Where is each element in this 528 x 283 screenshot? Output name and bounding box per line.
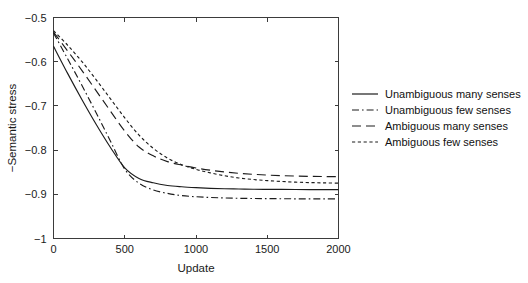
x-tick-label: 500 <box>116 243 134 255</box>
x-axis-tick-labels: 0500100015002000 <box>50 243 350 255</box>
y-axis-ticks <box>54 18 339 239</box>
legend-label-1: Unambiguous few senses <box>385 104 511 116</box>
data-series-group <box>54 31 339 199</box>
y-tick-label: −0.8 <box>25 144 47 156</box>
figure-canvas: 0500100015002000 −1−0.9−0.8−0.7−0.6−0.5 … <box>0 0 528 283</box>
chart-plot: 0500100015002000 −1−0.9−0.8−0.7−0.6−0.5 … <box>0 0 528 283</box>
y-tick-label: −0.5 <box>25 12 47 24</box>
x-axis-ticks <box>54 18 339 239</box>
axes-box <box>54 18 339 239</box>
y-axis-tick-labels: −1−0.9−0.8−0.7−0.6−0.5 <box>25 12 47 245</box>
x-tick-label: 1500 <box>255 243 279 255</box>
x-tick-label: 1000 <box>184 243 208 255</box>
y-tick-label: −0.6 <box>25 56 47 68</box>
y-axis-title: −Semantic stress <box>6 83 18 172</box>
y-tick-label: −1 <box>34 233 47 245</box>
legend-label-0: Unambiguous many senses <box>385 88 521 100</box>
legend-label-3: Ambiguous few senses <box>385 136 499 148</box>
series-line-3 <box>54 31 339 183</box>
legend-label-2: Ambiguous many senses <box>385 120 508 132</box>
chart-legend: Unambiguous many sensesUnambiguous few s… <box>352 88 521 148</box>
x-tick-label: 2000 <box>326 243 350 255</box>
x-axis-title: Update <box>177 262 214 274</box>
y-tick-label: −0.7 <box>25 100 47 112</box>
axes-frame <box>54 18 339 239</box>
series-line-1 <box>54 33 339 199</box>
series-line-2 <box>54 32 339 177</box>
x-tick-label: 0 <box>50 243 56 255</box>
y-tick-label: −0.9 <box>25 188 47 200</box>
